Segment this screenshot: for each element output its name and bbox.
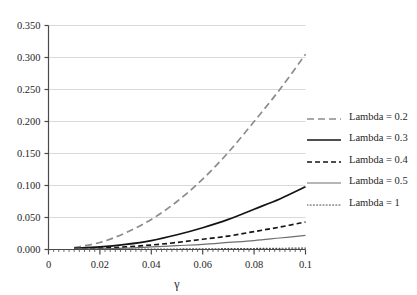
y-tick-labels: 0.0000.0500.1000.1500.2000.2500.3000.350 <box>17 20 41 255</box>
x-tick-label: 0.06 <box>194 259 212 270</box>
x-axis <box>49 250 306 255</box>
legend-swatch-icon <box>307 197 341 209</box>
y-tick-label: 0.150 <box>17 148 41 159</box>
legend-item[interactable]: Lambda = 1 <box>307 192 417 214</box>
y-axis <box>45 26 49 250</box>
x-axis-title: γ <box>173 277 180 291</box>
chart-legend: Lambda = 0.2Lambda = 0.3Lambda = 0.4Lamb… <box>307 106 417 214</box>
y-tick-label: 0.000 <box>17 244 41 255</box>
legend-label: Lambda = 1 <box>349 198 400 209</box>
legend-label: Lambda = 0.2 <box>349 112 408 123</box>
legend-label: Lambda = 0.5 <box>349 176 408 187</box>
legend-swatch-icon <box>307 111 341 123</box>
series-line-0 <box>74 54 305 247</box>
y-tick-label: 0.350 <box>17 20 41 31</box>
legend-swatch-icon <box>307 132 341 144</box>
y-tick-label: 0.100 <box>17 180 41 191</box>
data-series-group <box>74 54 305 249</box>
legend-label: Lambda = 0.4 <box>349 155 408 166</box>
y-tick-label: 0.050 <box>17 212 41 223</box>
legend-swatch-icon <box>307 175 341 187</box>
x-tick-labels: 00.020.040.060.080.1 <box>46 259 312 270</box>
legend-label: Lambda = 0.3 <box>349 133 408 144</box>
y-tick-label: 0.200 <box>17 116 41 127</box>
line-chart: 0.0000.0500.1000.1500.2000.2500.3000.350… <box>0 0 417 295</box>
legend-item[interactable]: Lambda = 0.5 <box>307 171 417 193</box>
y-tick-label: 0.300 <box>17 52 41 63</box>
x-tick-label: 0.02 <box>91 259 109 270</box>
x-tick-label: 0.04 <box>142 259 161 270</box>
x-tick-label: 0.08 <box>245 259 263 270</box>
x-tick-label: 0 <box>46 259 51 270</box>
legend-item[interactable]: Lambda = 0.2 <box>307 106 417 128</box>
gridlines <box>49 26 306 250</box>
legend-item[interactable]: Lambda = 0.3 <box>307 128 417 150</box>
legend-swatch-icon <box>307 154 341 166</box>
y-tick-label: 0.250 <box>17 84 41 95</box>
x-tick-label: 0.1 <box>299 259 312 270</box>
legend-item[interactable]: Lambda = 0.4 <box>307 149 417 171</box>
